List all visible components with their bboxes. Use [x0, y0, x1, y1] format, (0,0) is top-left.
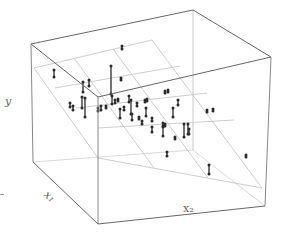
point-marker	[119, 108, 122, 111]
point-marker	[188, 128, 191, 131]
box-edge	[98, 206, 265, 224]
box-edge	[33, 150, 193, 162]
data-point	[105, 105, 108, 110]
point-marker	[162, 135, 165, 138]
point-marker	[177, 99, 180, 102]
point-marker	[183, 123, 186, 126]
point-marker	[145, 107, 148, 110]
point-marker	[88, 85, 91, 88]
box-back-edges	[33, 10, 265, 206]
data-point	[212, 108, 215, 113]
point-marker	[141, 120, 144, 123]
point-marker	[187, 123, 190, 126]
box-edge	[31, 10, 193, 44]
point-marker	[183, 136, 186, 139]
point-marker	[114, 99, 117, 102]
point-marker	[136, 102, 139, 105]
point-marker	[100, 109, 103, 112]
data-point	[110, 65, 113, 96]
point-marker	[111, 95, 114, 98]
plane-grid-line	[113, 49, 208, 178]
point-marker	[141, 123, 144, 126]
point-marker	[136, 105, 139, 108]
point-marker	[151, 126, 154, 129]
point-marker	[117, 100, 120, 103]
box-edge	[265, 57, 271, 206]
data-point	[166, 151, 169, 158]
point-marker	[166, 155, 169, 158]
point-marker	[164, 125, 167, 128]
point-marker	[53, 76, 56, 79]
point-marker	[72, 109, 75, 112]
point-marker	[130, 99, 133, 102]
point-marker	[151, 117, 154, 120]
point-marker	[172, 116, 175, 119]
data-point	[172, 107, 175, 119]
point-marker	[114, 102, 117, 105]
data-point	[146, 98, 149, 103]
data-point	[206, 109, 209, 114]
data-point	[183, 123, 186, 139]
point-marker	[72, 105, 75, 108]
data-point	[69, 102, 72, 109]
data-point	[88, 79, 91, 88]
point-marker	[121, 45, 124, 48]
point-marker	[206, 111, 209, 114]
point-marker	[208, 173, 211, 176]
plane-grid-line	[98, 158, 262, 188]
point-marker	[151, 131, 154, 134]
data-point	[131, 113, 134, 122]
data-point	[81, 96, 84, 110]
data-point	[53, 69, 56, 79]
point-marker	[111, 103, 114, 106]
point-marker	[110, 65, 113, 68]
point-marker	[105, 107, 108, 110]
point-marker	[84, 116, 87, 119]
axis-tick-mark	[0, 194, 4, 195]
point-marker	[174, 138, 177, 141]
data-point	[174, 136, 177, 141]
point-marker	[121, 48, 124, 51]
data-point	[119, 108, 122, 120]
point-marker	[208, 164, 211, 167]
point-marker	[212, 110, 215, 113]
data-point	[151, 126, 154, 134]
data-point	[114, 99, 117, 105]
point-marker	[69, 102, 72, 105]
data-point	[111, 95, 114, 106]
point-marker	[81, 107, 84, 110]
data-point	[208, 164, 211, 176]
data-point	[164, 90, 167, 95]
point-marker	[131, 113, 134, 116]
data-point	[138, 116, 141, 121]
data-point	[72, 105, 75, 112]
box-edge	[31, 44, 33, 162]
point-marker	[188, 133, 191, 136]
point-marker	[145, 115, 148, 118]
plane-grid-line	[34, 40, 152, 68]
point-marker	[151, 120, 154, 123]
data-point	[136, 102, 139, 108]
point-marker	[123, 106, 126, 109]
box-edge	[33, 162, 98, 224]
x2-axis-label: x₂	[183, 202, 194, 215]
point-marker	[53, 69, 56, 72]
point-marker	[88, 79, 91, 82]
y-axis-label: y	[5, 95, 11, 108]
point-marker	[100, 105, 103, 108]
box-edge	[193, 10, 271, 57]
data-point	[151, 117, 154, 123]
plane-grid-line	[55, 66, 180, 88]
point-marker	[166, 151, 169, 154]
point-marker	[164, 92, 167, 95]
data-point	[82, 81, 85, 94]
point-marker	[131, 119, 134, 122]
regression-plane	[34, 40, 262, 188]
data-point	[141, 120, 144, 126]
point-marker	[81, 96, 84, 99]
point-marker	[172, 107, 175, 110]
box-edge	[31, 44, 98, 97]
point-marker	[120, 79, 123, 82]
point-marker	[123, 109, 126, 112]
point-marker	[245, 156, 248, 159]
